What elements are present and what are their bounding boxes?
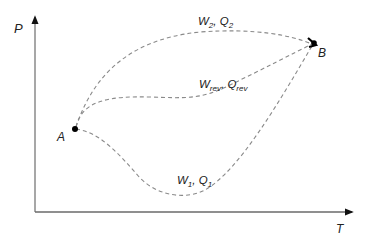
y-axis-label: P bbox=[14, 21, 23, 36]
path-1-curve bbox=[76, 46, 312, 195]
point-a-label: A bbox=[56, 130, 65, 144]
point-b bbox=[308, 38, 317, 47]
path-2-curve bbox=[76, 31, 312, 127]
path-rev-curve bbox=[76, 44, 312, 127]
x-axis-label: T bbox=[336, 222, 345, 236]
point-b-label: B bbox=[318, 46, 326, 60]
pt-diagram: P T A B W2, Q2 Wrev, Qrev W1, Q1 bbox=[0, 0, 365, 241]
path-2-label: W2, Q2 bbox=[198, 15, 234, 30]
path-1-label: W1, Q1 bbox=[177, 174, 212, 189]
path-rev-label: Wrev, Qrev bbox=[199, 78, 248, 93]
point-a bbox=[72, 126, 78, 132]
